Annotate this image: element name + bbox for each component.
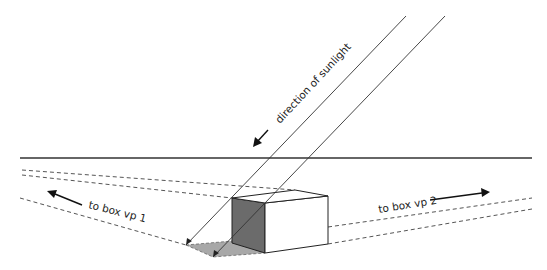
box-shaded-face — [232, 198, 265, 253]
vp1-label: to box vp 1 — [88, 198, 148, 224]
sunlight-arrow-icon — [253, 130, 268, 147]
vp2-arrow-icon — [430, 188, 490, 200]
box-lit-face — [265, 196, 328, 253]
vp1-arrow-icon — [47, 190, 82, 205]
perspective-diagram: direction of sunlight to box vp 1 to box… — [0, 0, 547, 270]
vp2-label: to box vp 2 — [377, 194, 437, 215]
